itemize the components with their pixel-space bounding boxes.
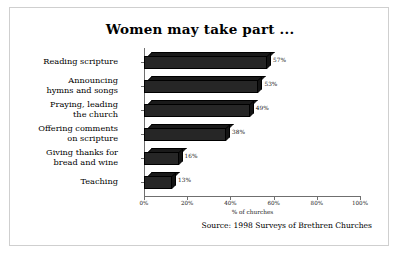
bar-side-face (179, 148, 183, 165)
bar-side-face (267, 52, 271, 69)
source-note: Source: 1998 Surveys of Brethren Churche… (202, 221, 373, 230)
bar (144, 148, 183, 165)
bar (144, 124, 230, 141)
bar-value-label: 16% (185, 153, 198, 159)
bar (144, 52, 271, 69)
bar-side-face (250, 100, 254, 117)
x-axis-title: % of churches (144, 209, 361, 215)
bar-front-face (144, 104, 250, 117)
bar-value-label: 49% (256, 105, 269, 111)
value-axis-line (144, 196, 361, 197)
category-label: Giving thanks for bread and wine (0, 148, 118, 166)
x-axis-tick-label: 60% (267, 200, 279, 206)
bar-side-face (226, 124, 230, 141)
bar-front-face (144, 80, 258, 93)
x-axis-tick-label: 40% (224, 200, 236, 206)
chart-title: Women may take part ... (10, 21, 390, 37)
x-axis-tick-label: 20% (181, 200, 193, 206)
bar-side-face (172, 172, 176, 189)
bar-value-label: 53% (264, 81, 277, 87)
category-label: Teaching (0, 177, 118, 186)
x-axis-tick-label: 0% (140, 200, 149, 206)
bar-side-face (258, 76, 262, 93)
bar (144, 76, 262, 93)
chart-figure: Women may take part ... Reading scriptur… (0, 0, 399, 260)
category-label: Offering comments on scripture (0, 124, 118, 142)
bar (144, 100, 254, 117)
bar-front-face (144, 176, 172, 189)
bar (144, 172, 176, 189)
x-axis-tick-label: 80% (311, 200, 323, 206)
category-label: Praying, leading the church (0, 100, 118, 118)
x-axis-tick-label: 100% (352, 200, 368, 206)
bar-front-face (144, 152, 179, 165)
bar-value-label: 13% (178, 177, 191, 183)
chart-frame: Women may take part ... Reading scriptur… (9, 7, 389, 246)
bar-front-face (144, 56, 267, 69)
bar-front-face (144, 128, 226, 141)
bar-value-label: 38% (232, 129, 245, 135)
bar-value-label: 57% (273, 57, 286, 63)
category-label: Announcing hymns and songs (0, 76, 118, 94)
category-label: Reading scripture (0, 57, 118, 66)
